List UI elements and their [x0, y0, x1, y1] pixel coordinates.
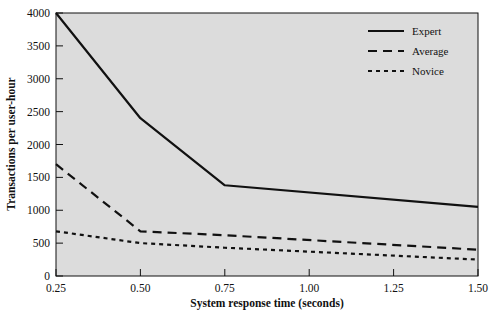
x-axis-title: System response time (seconds)	[190, 297, 344, 310]
legend-label-novice: Novice	[412, 65, 444, 77]
legend-label-expert: Expert	[412, 25, 441, 37]
x-tick-label: 1.25	[384, 282, 404, 294]
y-tick-label: 1500	[27, 171, 50, 183]
y-tick-label: 3500	[27, 40, 50, 52]
x-tick-label: 0.25	[46, 282, 66, 294]
y-tick-label: 4000	[27, 7, 50, 19]
x-tick-label: 0.50	[130, 282, 150, 294]
x-tick-label: 0.75	[215, 282, 235, 294]
y-tick-label: 500	[33, 237, 51, 249]
chart-figure: 05001000150020002500300035004000 0.250.5…	[0, 0, 495, 316]
line-chart-svg: 05001000150020002500300035004000 0.250.5…	[0, 0, 495, 316]
y-tick-label: 2000	[27, 139, 50, 151]
y-tick-label: 0	[44, 270, 50, 282]
x-tick-label: 1.00	[299, 282, 319, 294]
y-axis-title: Transactions per user-hour	[5, 77, 18, 210]
y-tick-label: 2500	[27, 106, 50, 118]
legend-label-average: Average	[412, 45, 449, 57]
y-tick-label: 3000	[27, 73, 50, 85]
y-tick-label: 1000	[27, 204, 50, 216]
x-tick-label: 1.50	[468, 282, 488, 294]
